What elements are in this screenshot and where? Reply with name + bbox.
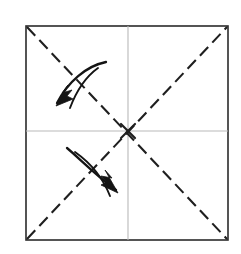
origami-diagram — [0, 0, 241, 254]
origami-canvas — [0, 0, 241, 254]
